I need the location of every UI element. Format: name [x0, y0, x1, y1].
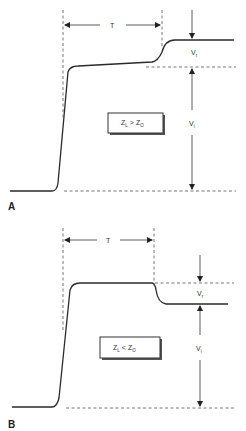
panel-a: T Vr Vi ZL>ZO A — [8, 10, 236, 212]
vi-label-b: Vi — [196, 345, 202, 354]
vi-label-a: Vi — [189, 120, 195, 129]
panel-label-b: B — [8, 419, 15, 430]
time-label-a: T — [110, 22, 115, 29]
panel-label-a: A — [8, 201, 15, 212]
time-label-b: T — [106, 237, 111, 244]
panel-b: T Vr Vi ZL<ZO B — [8, 228, 236, 430]
tdr-waveform-diagram: T Vr Vi ZL>ZO A T Vr Vi ZL<ZO — [0, 0, 246, 431]
vr-label-b: Vr — [197, 290, 204, 299]
vr-label-a: Vr — [191, 49, 198, 58]
